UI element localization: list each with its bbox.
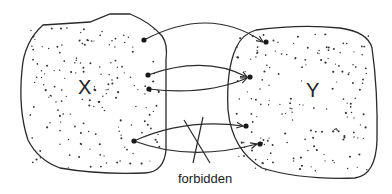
x-point-2 — [145, 72, 150, 77]
function-diagram: X Y forbidden — [0, 0, 392, 194]
mapping-arrows — [134, 23, 263, 152]
y-point-2 — [247, 74, 252, 79]
set-y-label: Y — [306, 79, 319, 101]
x-point-1 — [141, 37, 146, 42]
arrow-1 — [144, 23, 263, 42]
set-y-boundary — [228, 26, 377, 178]
arrow-2 — [148, 65, 247, 77]
x-point-3 — [146, 86, 151, 91]
set-x-elements — [29, 27, 160, 168]
y-point-1 — [263, 39, 268, 44]
x-point-4 — [131, 138, 136, 143]
y-point-3 — [243, 123, 248, 128]
set-y: Y — [228, 26, 377, 178]
set-y-elements — [236, 34, 370, 172]
y-point-4 — [257, 141, 262, 146]
forbidden-label: forbidden — [178, 171, 232, 186]
arrow-3 — [149, 78, 247, 91]
set-x-label: X — [78, 76, 91, 98]
